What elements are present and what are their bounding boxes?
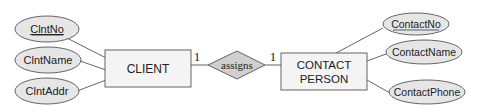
entity-label-line1: CONTACT <box>297 59 352 71</box>
attribute-contactname[interactable]: ContactName <box>386 40 462 64</box>
entity-client[interactable]: CLIENT <box>105 50 191 87</box>
attribute-label: ClntAddr <box>26 85 69 97</box>
relationship-assigns[interactable]: assigns <box>208 51 265 79</box>
entity-label-line2: PERSON <box>300 73 349 85</box>
er-diagram: ClntNo ClntName ClntAddr CLIENT 1 assign… <box>0 0 477 112</box>
entity-label: CLIENT <box>127 62 170 76</box>
attribute-label: ContactNo <box>391 18 441 30</box>
cardinality-left: 1 <box>194 49 201 64</box>
line-contact-contactname <box>367 54 386 61</box>
cardinality-right: 1 <box>270 49 277 64</box>
attribute-label: ContactPhone <box>394 86 461 98</box>
attribute-clntaddr[interactable]: ClntAddr <box>15 78 79 104</box>
line-contact-contactno <box>336 28 383 53</box>
attribute-contactno[interactable]: ContactNo <box>383 13 449 35</box>
attribute-contactphone[interactable]: ContactPhone <box>389 80 465 104</box>
attribute-label: ClntName <box>24 54 73 66</box>
attribute-label: ContactName <box>392 46 456 58</box>
line-clntaddr-client <box>77 80 106 91</box>
line-clntname-client <box>80 61 106 70</box>
line-contact-contactphone <box>367 80 390 93</box>
attribute-label: ClntNo <box>30 23 64 35</box>
attribute-clntno[interactable]: ClntNo <box>15 16 79 42</box>
entity-contact-person[interactable]: CONTACT PERSON <box>281 53 367 90</box>
relationship-label: assigns <box>221 59 253 71</box>
attribute-clntname[interactable]: ClntName <box>15 47 81 73</box>
